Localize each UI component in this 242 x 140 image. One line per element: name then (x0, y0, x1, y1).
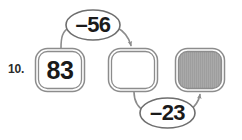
node-op-1[interactable] (66, 10, 120, 40)
node-op-2[interactable] (140, 98, 195, 128)
node-box-3[interactable] (176, 49, 225, 92)
function-machine-diagram: 10. 83 –56 –23 (0, 0, 242, 140)
diagram-graphics (0, 0, 242, 140)
node-box-1[interactable] (36, 49, 85, 92)
node-box-2[interactable] (109, 49, 158, 92)
